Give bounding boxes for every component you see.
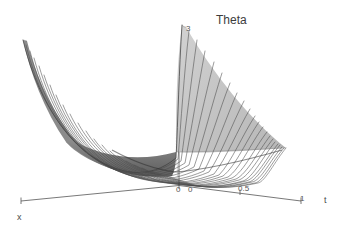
t-tick-label-1: 1 — [300, 195, 304, 203]
t-tick-label-0point5: 0.5 — [238, 185, 249, 193]
surface-plot-canvas — [0, 0, 346, 235]
x-axis-name: x — [17, 213, 22, 222]
plot-title: Theta — [216, 14, 247, 26]
surface-fill — [23, 25, 286, 177]
surface-plot-figure: Theta 3 0 0 0.5 1 t x — [0, 0, 346, 235]
theta-tick-label-3: 3 — [186, 25, 190, 33]
x-tick-label-0: 0 — [176, 186, 180, 194]
x-axis — [21, 182, 179, 204]
t-tick-label-0: 0 — [188, 186, 192, 194]
t-axis-name: t — [324, 196, 327, 205]
